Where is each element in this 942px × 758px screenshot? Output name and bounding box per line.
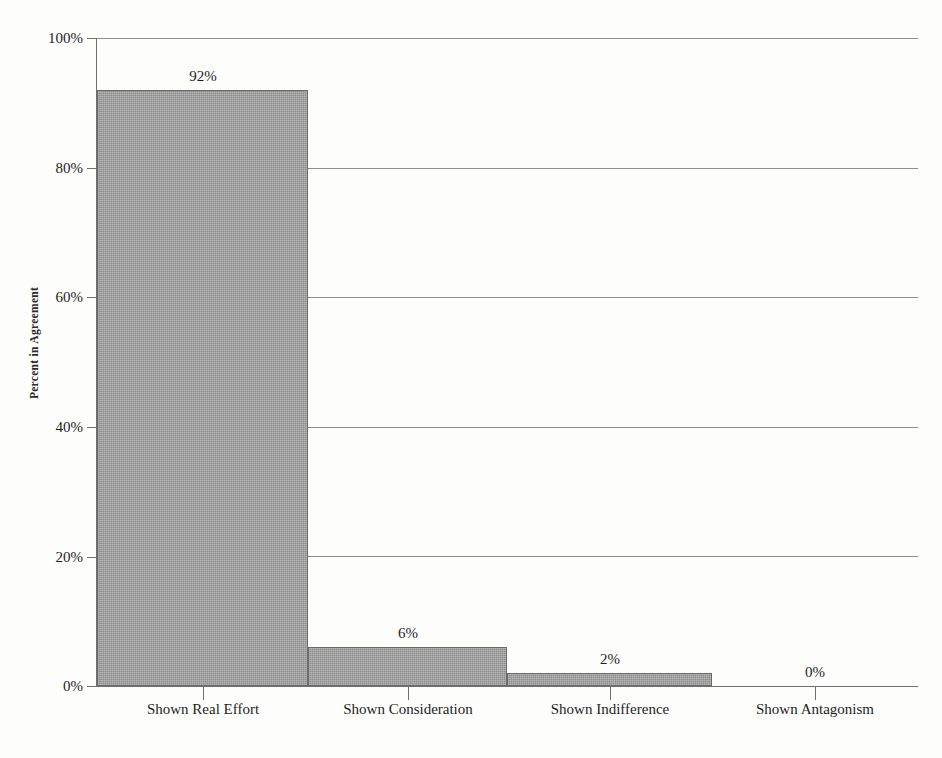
y-tick-label-group: 100% 80% 60% 40% 20% 0% (0, 0, 83, 758)
x-tick-label-shown-real-effort: Shown Real Effort (147, 701, 259, 718)
bar-shown-indifference[interactable] (507, 673, 712, 686)
x-tick-label-shown-consideration: Shown Consideration (343, 701, 473, 718)
y-tick-label-0: 0% (13, 678, 83, 695)
bar-chart-figure: Percent in Agreement 100% 80% 60% 40% 20… (0, 0, 942, 758)
y-tick-label-60: 60% (13, 289, 83, 306)
x-tick-mark-shown-consideration (408, 687, 409, 700)
y-tick-label-20: 20% (13, 549, 83, 566)
bar-value-label-shown-indifference: 2% (600, 651, 620, 668)
y-tick-mark-60 (87, 297, 96, 298)
y-tick-label-80: 80% (13, 160, 83, 177)
bar-value-label-shown-antagonism: 0% (805, 664, 825, 681)
y-axis-title-text: Percent in Agreement (28, 287, 40, 399)
x-tick-mark-shown-indifference (610, 687, 611, 700)
y-tick-mark-80 (87, 168, 96, 169)
y-tick-label-100: 100% (13, 30, 83, 47)
bar-value-label-shown-real-effort: 92% (189, 68, 217, 85)
y-tick-label-40: 40% (13, 419, 83, 436)
y-tick-mark-40 (87, 427, 96, 428)
gridline-100 (97, 38, 918, 39)
y-tick-mark-100 (87, 38, 96, 39)
y-tick-mark-20 (87, 557, 96, 558)
y-axis-title: Percent in Agreement (14, 0, 54, 686)
x-tick-label-shown-antagonism: Shown Antagonism (756, 701, 874, 718)
bar-shown-consideration[interactable] (308, 647, 507, 686)
plot-area: 92% 6% 2% 0% (97, 38, 918, 686)
x-tick-mark-shown-antagonism (815, 687, 816, 700)
x-tick-label-shown-indifference: Shown Indifference (551, 701, 669, 718)
bar-shown-real-effort[interactable] (97, 90, 308, 686)
x-tick-mark-shown-real-effort (203, 687, 204, 700)
gridline-baseline-0 (97, 686, 918, 687)
y-tick-mark-0 (87, 686, 96, 687)
bar-value-label-shown-consideration: 6% (398, 625, 418, 642)
